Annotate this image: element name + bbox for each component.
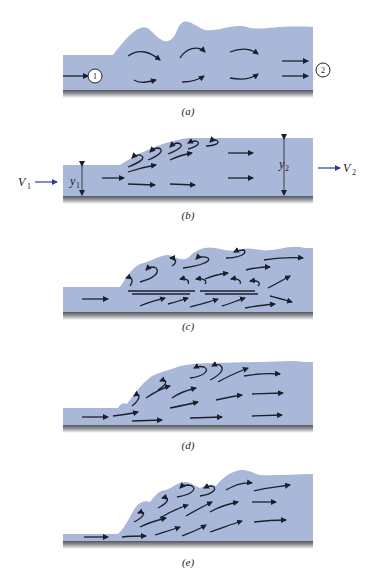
caption-c: (c) xyxy=(182,320,195,333)
water-body-b xyxy=(63,138,313,196)
velocity-sub-v2: 2 xyxy=(352,168,356,177)
channel-bed-e xyxy=(63,541,313,549)
velocity-sub-v1: 1 xyxy=(27,182,31,191)
channel-bed-c xyxy=(63,312,313,320)
depth-label-y1: y xyxy=(69,174,76,188)
panel-d: (d) xyxy=(63,361,313,452)
depth-label-y2: y xyxy=(278,157,285,171)
caption-d: (d) xyxy=(182,439,195,452)
panel-c: (c) xyxy=(63,247,313,333)
velocity-v1: V 1 xyxy=(18,175,57,191)
section-label-2: 2 xyxy=(321,66,325,75)
caption-b: (b) xyxy=(182,209,195,222)
velocity-label-v2: V xyxy=(343,161,352,175)
channel-bed-a xyxy=(63,90,313,98)
channel-bed-d xyxy=(63,425,313,433)
caption-a: (a) xyxy=(182,105,195,118)
section-marker-1: 1 xyxy=(88,69,102,83)
depth-sub-y1: 1 xyxy=(76,181,80,190)
section-label-1: 1 xyxy=(93,72,97,81)
water-body-c xyxy=(63,247,313,312)
panel-a: 1 2 (a) xyxy=(63,22,330,118)
caption-e: (e) xyxy=(182,556,195,569)
velocity-label-v1: V xyxy=(18,175,27,189)
hydraulic-jump-figure: 1 2 (a) y 1 xyxy=(0,0,368,574)
velocity-v2: V 2 xyxy=(318,161,356,177)
depth-sub-y2: 2 xyxy=(285,164,289,173)
panel-e: (e) xyxy=(63,470,313,569)
section-marker-2: 2 xyxy=(316,63,330,77)
panel-b: y 1 y 2 V 1 V 2 (b) xyxy=(18,138,356,222)
channel-bed-b xyxy=(63,196,313,204)
